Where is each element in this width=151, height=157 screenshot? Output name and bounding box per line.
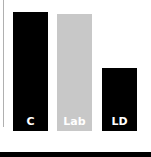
bar-ld: LD — [102, 68, 137, 131]
bottom-rule — [0, 152, 151, 157]
bar-label: C — [26, 116, 34, 128]
bar-label: Lab — [63, 116, 85, 128]
bar-label: LD — [111, 116, 127, 128]
bar-c: C — [13, 12, 48, 131]
y-axis-line — [3, 0, 4, 127]
bar-lab: Lab — [57, 14, 92, 131]
